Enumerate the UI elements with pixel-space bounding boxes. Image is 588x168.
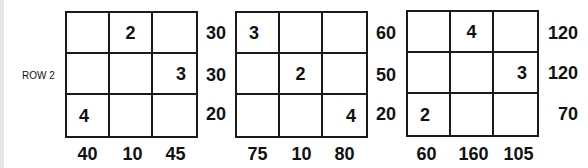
cell[interactable] [110, 54, 153, 95]
cell[interactable]: 3 [237, 13, 280, 54]
puzzle-2-grid: 3 2 4 [235, 11, 368, 138]
row-sum: 30 [190, 23, 226, 44]
row-sum: 20 [360, 104, 396, 125]
col-sum: 45 [154, 144, 197, 165]
cell[interactable] [67, 54, 110, 95]
col-sum: 160 [452, 144, 495, 165]
row-sum: 20 [190, 104, 226, 125]
row-sum: 50 [360, 65, 396, 86]
col-sum: 105 [497, 144, 540, 165]
cell[interactable] [110, 95, 153, 136]
cell[interactable]: 4 [451, 12, 494, 53]
puzzle-3-grid: 4 3 2 [406, 10, 539, 137]
cell[interactable] [237, 54, 280, 95]
cell[interactable]: 2 [280, 54, 323, 95]
page-edge [0, 0, 4, 168]
row-sum: 120 [542, 63, 578, 84]
cell[interactable] [451, 53, 494, 94]
col-sum: 40 [66, 144, 109, 165]
cell[interactable] [67, 13, 110, 54]
row-sum: 70 [542, 104, 578, 125]
cell[interactable]: 2 [110, 13, 153, 54]
cell[interactable] [494, 12, 537, 53]
cell[interactable] [408, 12, 451, 53]
cell[interactable] [451, 94, 494, 135]
cell[interactable] [280, 13, 323, 54]
col-sum: 10 [111, 144, 154, 165]
cell[interactable] [494, 94, 537, 135]
cell[interactable]: 2 [408, 94, 451, 135]
col-sum: 75 [236, 144, 279, 165]
cell[interactable] [237, 95, 280, 136]
col-sum: 60 [405, 144, 448, 165]
cell[interactable] [280, 95, 323, 136]
col-sum: 80 [323, 144, 366, 165]
row-label: ROW 2 [22, 70, 55, 81]
cell[interactable]: 3 [494, 53, 537, 94]
row-sum: 30 [190, 65, 226, 86]
row-sum: 60 [360, 23, 396, 44]
col-sum: 10 [280, 144, 323, 165]
row-sum: 120 [542, 23, 578, 44]
cell[interactable] [408, 53, 451, 94]
puzzle-1-grid: 2 3 4 [65, 11, 198, 138]
cell[interactable]: 4 [67, 95, 110, 136]
